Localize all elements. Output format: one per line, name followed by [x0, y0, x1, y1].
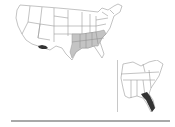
us-map-svg: [10, 2, 140, 64]
us-map: [10, 2, 140, 64]
inset-map-svg: [119, 60, 167, 114]
inset-outline: [121, 60, 163, 112]
inset-divider: [117, 60, 118, 112]
bottom-rule: [11, 120, 170, 122]
us-outline: [16, 4, 122, 60]
dark-shaded-region-florida: [141, 92, 155, 112]
southeast-inset-map: [119, 60, 167, 114]
